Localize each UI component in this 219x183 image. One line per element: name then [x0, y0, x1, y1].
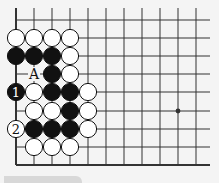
black-stone[interactable] [25, 120, 42, 137]
move-number-label: 1 [12, 85, 20, 100]
move-number-label: 2 [12, 122, 20, 137]
black-stone[interactable] [61, 120, 78, 137]
black-stone[interactable] [43, 120, 60, 137]
white-stone[interactable] [25, 102, 42, 119]
white-stone[interactable] [79, 120, 96, 137]
black-stone[interactable] [61, 83, 78, 100]
black-stone[interactable] [61, 102, 78, 119]
white-stone[interactable] [61, 138, 78, 155]
go-board[interactable]: 12 A [0, 0, 219, 183]
white-stone[interactable] [79, 102, 96, 119]
white-stone[interactable] [61, 29, 78, 46]
star-points [176, 109, 181, 114]
point-label-a: A [28, 66, 40, 82]
white-stone[interactable] [25, 29, 42, 46]
stones-layer: 12 [7, 29, 96, 155]
black-stone[interactable] [7, 47, 24, 64]
white-stone[interactable] [61, 65, 78, 82]
white-stone[interactable] [25, 83, 42, 100]
white-stone[interactable] [79, 83, 96, 100]
white-stone[interactable] [61, 47, 78, 64]
black-stone[interactable] [43, 65, 60, 82]
markers-layer: A [28, 66, 40, 82]
bottom-tab-decoration [4, 176, 82, 183]
star-point-icon [176, 109, 181, 114]
black-stone[interactable]: 1 [7, 83, 24, 100]
white-stone[interactable]: 2 [7, 120, 24, 137]
white-stone[interactable] [43, 138, 60, 155]
black-stone[interactable] [43, 83, 60, 100]
white-stone[interactable] [43, 102, 60, 119]
white-stone[interactable] [7, 29, 24, 46]
black-stone[interactable] [43, 47, 60, 64]
white-stone[interactable] [43, 29, 60, 46]
white-stone[interactable] [25, 138, 42, 155]
black-stone[interactable] [25, 47, 42, 64]
